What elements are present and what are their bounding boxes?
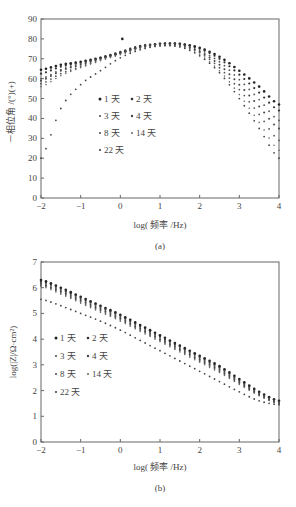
- x-tick-label: −1: [76, 445, 86, 455]
- data-point: [263, 129, 265, 131]
- legend-label: 3 天: [104, 111, 120, 121]
- legend-marker: [131, 132, 133, 134]
- data-point: [233, 69, 235, 71]
- data-point: [110, 63, 112, 65]
- data-point: [224, 75, 226, 77]
- data-point: [233, 91, 235, 93]
- data-point: [85, 314, 87, 316]
- data-point: [85, 80, 87, 82]
- y-tick-label: 70: [28, 54, 38, 64]
- y-ticks: 0102030405060708090: [28, 14, 44, 203]
- legend-item: 4 天: [131, 111, 152, 121]
- data-point: [219, 372, 221, 374]
- data-point: [194, 359, 196, 361]
- x-axis-title: log( 频率 /Hz): [134, 461, 187, 472]
- data-point: [45, 71, 47, 73]
- data-point: [229, 69, 231, 71]
- data-point: [268, 144, 270, 146]
- data-point: [238, 391, 240, 393]
- data-point: [268, 137, 270, 139]
- data-point: [213, 55, 215, 57]
- data-point: [273, 106, 275, 108]
- y-tick-label: 30: [28, 133, 38, 143]
- x-tick-label: 0: [118, 445, 123, 455]
- y-axis-title: log(|Z|/Ω·cm²): [8, 326, 18, 378]
- data-point: [243, 89, 245, 91]
- legend-label: 22 天: [104, 145, 124, 155]
- data-point: [70, 309, 72, 311]
- data-point: [75, 69, 77, 71]
- data-point: [214, 67, 216, 69]
- data-point: [45, 67, 48, 70]
- data-point: [40, 78, 42, 80]
- data-point: [184, 47, 186, 49]
- legend-marker: [55, 391, 57, 393]
- legend-marker: [55, 355, 57, 357]
- data-point: [268, 102, 270, 104]
- legend-item: 8 天: [99, 128, 120, 138]
- data-point: [204, 50, 206, 52]
- data-point: [278, 139, 280, 141]
- data-point: [65, 73, 67, 75]
- data-point: [268, 400, 270, 402]
- data-point: [159, 350, 161, 352]
- series-6: [40, 45, 280, 151]
- data-point: [253, 120, 255, 122]
- legend-label: 3 天: [60, 351, 76, 361]
- data-point: [179, 360, 181, 362]
- legend-item: 8 天: [55, 369, 76, 379]
- data-point: [208, 52, 210, 54]
- data-point: [80, 313, 82, 315]
- data-point: [219, 64, 221, 66]
- data-point: [204, 373, 206, 375]
- data-point: [40, 80, 42, 82]
- data-point: [253, 107, 255, 109]
- legend-item: 1 天: [99, 94, 120, 104]
- data-point: [40, 83, 42, 85]
- data-point: [273, 100, 276, 103]
- impedance-modulus-chart: 01234567 −2−101234 1 天2 天3 天4 天8 天14 天22…: [8, 257, 282, 493]
- data-point: [55, 291, 57, 293]
- x-tick-label: 1: [158, 201, 163, 211]
- data-point: [209, 367, 211, 369]
- data-point: [229, 84, 231, 86]
- data-point: [278, 109, 280, 111]
- x-ticks: −2−101234: [36, 195, 282, 211]
- legend-item: 2 天: [87, 333, 108, 343]
- data-point: [154, 46, 156, 48]
- data-point: [253, 81, 256, 84]
- data-point: [224, 383, 226, 385]
- data-point: [239, 94, 241, 96]
- legend-label: 4 天: [92, 351, 108, 361]
- data-point: [50, 66, 53, 69]
- data-point: [65, 71, 67, 73]
- data-point: [238, 84, 240, 86]
- data-point: [243, 95, 245, 97]
- panel-label: (b): [155, 483, 166, 493]
- data-point: [268, 95, 271, 98]
- data-point: [45, 84, 47, 86]
- data-point: [139, 331, 141, 333]
- legend-label: 4 天: [136, 111, 152, 121]
- data-point: [149, 46, 151, 48]
- x-tick-label: 2: [197, 445, 202, 455]
- data-point: [233, 74, 235, 76]
- x-tick-label: −2: [36, 445, 46, 455]
- data-point: [224, 65, 226, 67]
- data-point: [263, 121, 265, 123]
- data-point: [149, 345, 151, 347]
- data-point: [243, 73, 246, 76]
- legend-label: 8 天: [104, 128, 120, 138]
- data-point: [55, 303, 57, 305]
- y-tick-label: 40: [28, 113, 38, 123]
- data-point: [75, 65, 77, 67]
- data-point: [114, 60, 116, 62]
- data-point: [80, 302, 82, 304]
- data-point: [174, 349, 176, 351]
- data-point: [40, 298, 42, 300]
- data-point: [105, 66, 107, 68]
- data-point: [45, 300, 47, 302]
- data-point: [110, 325, 112, 327]
- legend: 1 天2 天3 天4 天8 天14 天22 天: [55, 333, 113, 397]
- data-point: [124, 323, 126, 325]
